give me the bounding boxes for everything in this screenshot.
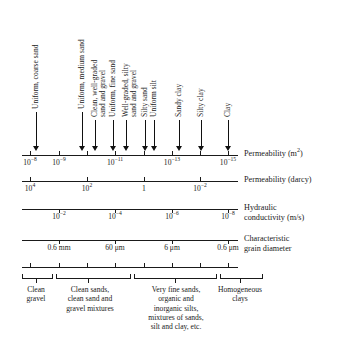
class-segment-cap-clean-sands-1	[130, 274, 131, 279]
callout-arrow-2	[95, 120, 96, 146]
axis-tick-permeability-m2-3	[115, 151, 116, 155]
minor-rule-tick-7	[228, 263, 229, 267]
class-label-clean-sands: Clean sands, clean sand and gravel mixtu…	[49, 285, 131, 313]
axis-tick-permeability-m2-2	[87, 151, 88, 155]
axis-tick-permeability-m2-0	[30, 151, 31, 155]
class-segment-cap-very-fine-sands-0	[134, 274, 135, 279]
minor-rule-tick-6	[200, 263, 201, 267]
callout-arrow-7	[179, 120, 180, 146]
axis-permeability-m2	[22, 155, 238, 156]
axis-caption-characteristic-grain-diameter: Characteristic grain diameter	[244, 234, 292, 253]
axis-ticklabel-characteristic-grain-diameter-3: 0.6 μm	[217, 243, 238, 252]
class-segment-cap-homogeneous-clays-1	[262, 274, 263, 279]
axis-ticklabel-hydraulic-conductivity-2: 10−6	[165, 212, 179, 221]
callout-arrow-6	[154, 120, 155, 146]
class-segment-tick-very-fine-sands	[175, 279, 176, 283]
class-label-homogeneous-clays: Homogeneous clays	[205, 285, 275, 304]
class-segment-tick-clean-gravel	[36, 279, 37, 283]
callout-arrow-1	[82, 112, 83, 146]
axis-ticklabel-permeability-m2-0: 10−8	[23, 158, 37, 167]
callout-arrow-8	[201, 120, 202, 146]
axis-ticklabel-permeability-darcy-1: 102	[82, 184, 92, 193]
minor-rule-tick-5	[172, 263, 173, 267]
class-segment-clean-sands	[56, 278, 130, 279]
callout-arrow-4	[126, 120, 127, 146]
axis-tick-permeability-m2-1	[59, 151, 60, 155]
callout-label-5: Silty sand	[141, 76, 149, 117]
class-segment-tick-homogeneous-clays	[240, 279, 241, 283]
axis-ticklabel-permeability-darcy-2: 1	[142, 184, 146, 193]
axis-tick-permeability-darcy-3	[200, 177, 201, 181]
callout-arrow-9	[228, 120, 229, 146]
minor-rule-tick-1	[59, 263, 60, 267]
minor-rule-tick-3	[115, 263, 116, 267]
callout-label-8: Silty clay	[197, 78, 205, 117]
callout-label-2: Clean, well-graded sand and gravel	[91, 38, 108, 117]
axis-ticklabel-permeability-m2-1: 10−9	[52, 158, 66, 167]
class-segment-cap-clean-sands-0	[56, 274, 57, 279]
callout-label-7: Sandy clay	[175, 74, 183, 117]
class-segment-tick-clean-sands	[88, 279, 89, 283]
axis-tick-permeability-m2-5	[172, 151, 173, 155]
axis-ticklabel-characteristic-grain-diameter-0: 0.6 mm	[47, 243, 70, 252]
permeability-chart: Uniform, coarse sandUniform, medium sand…	[0, 0, 343, 352]
axis-characteristic-grain-diameter	[22, 240, 238, 241]
class-segment-cap-clean-gravel-0	[22, 274, 23, 279]
callout-label-3: Uniform, fine sand	[109, 48, 117, 117]
axis-ticklabel-permeability-m2-7: 10−15	[220, 158, 236, 167]
class-segment-clean-gravel	[22, 278, 52, 279]
axis-ticklabel-permeability-m2-5: 10−13	[164, 158, 180, 167]
callout-label-1: Uniform, medium sand	[78, 16, 86, 109]
axis-caption-permeability-m2: Permeability (m2)	[244, 149, 303, 159]
minor-rule	[22, 267, 238, 268]
axis-caption-permeability-darcy: Permeability (darcy)	[244, 175, 312, 185]
callout-arrow-3	[113, 120, 114, 146]
axis-ticklabel-characteristic-grain-diameter-2: 6 μm	[164, 243, 180, 252]
axis-ticklabel-characteristic-grain-diameter-1: 60 μm	[105, 243, 124, 252]
axis-tick-permeability-darcy-2	[144, 177, 145, 181]
callout-arrow-0	[36, 112, 37, 146]
axis-ticklabel-permeability-m2-3: 10−11	[107, 158, 123, 167]
minor-rule-tick-0	[30, 263, 31, 267]
axis-ticklabel-permeability-darcy-0: 104	[25, 184, 35, 193]
callout-arrow-5	[145, 120, 146, 146]
axis-ticklabel-hydraulic-conductivity-1: 10−4	[108, 212, 122, 221]
axis-tick-permeability-m2-7	[228, 151, 229, 155]
callout-label-6: Uniform silt	[150, 70, 158, 117]
minor-rule-tick-2	[87, 263, 88, 267]
axis-tick-permeability-m2-6	[200, 151, 201, 155]
axis-ticklabel-hydraulic-conductivity-3: 10−8	[221, 212, 235, 221]
axis-ticklabel-hydraulic-conductivity-0: 10−2	[52, 212, 66, 221]
callout-label-0: Uniform, coarse sand	[32, 16, 40, 109]
axis-tick-permeability-darcy-0	[30, 177, 31, 181]
axis-hydraulic-conductivity	[22, 209, 238, 210]
callout-label-4: Well-graded, silty sand and gravel	[122, 41, 139, 117]
minor-rule-tick-4	[144, 263, 145, 267]
class-segment-cap-very-fine-sands-1	[216, 274, 217, 279]
class-segment-cap-clean-gravel-1	[52, 274, 53, 279]
axis-tick-permeability-darcy-1	[87, 177, 88, 181]
axis-ticklabel-permeability-darcy-3: 10−2	[193, 184, 207, 193]
class-segment-homogeneous-clays	[220, 278, 262, 279]
axis-tick-permeability-m2-4	[144, 151, 145, 155]
class-segment-cap-homogeneous-clays-0	[220, 274, 221, 279]
axis-caption-hydraulic-conductivity: Hydraulic conductivity (m/s)	[244, 203, 304, 222]
callout-label-9: Clay	[224, 96, 232, 117]
